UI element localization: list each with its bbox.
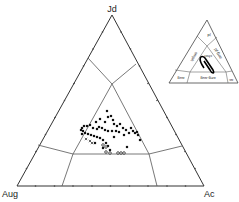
data-point	[80, 129, 82, 131]
inset-label-ac: ac	[229, 78, 233, 83]
data-point	[113, 123, 115, 125]
inset-classification-triangle: jd omph aeg-jd chor aug aeg-aug ac	[169, 20, 238, 83]
data-point	[130, 127, 132, 129]
data-point	[86, 125, 88, 127]
inset-label-chor: chor	[203, 54, 212, 59]
vertex-label-ac: Ac	[204, 189, 215, 199]
data-points-open	[102, 144, 126, 155]
data-point	[101, 127, 103, 129]
data-point	[98, 126, 100, 128]
data-point	[95, 121, 97, 123]
data-point	[84, 132, 86, 134]
vertex-label-jd: Jd	[107, 4, 117, 14]
data-point	[122, 127, 124, 129]
data-point	[137, 134, 139, 136]
data-point-open	[120, 152, 123, 155]
data-point	[93, 135, 95, 137]
data-point	[139, 139, 141, 141]
data-point	[119, 123, 121, 125]
field-boundaries	[38, 58, 182, 186]
data-point	[96, 128, 98, 130]
data-point	[105, 142, 107, 144]
data-points-solid	[80, 110, 141, 151]
data-point	[109, 149, 111, 151]
data-point	[99, 118, 101, 120]
data-point	[82, 130, 84, 132]
data-point	[132, 130, 134, 132]
data-point	[92, 127, 94, 129]
edge-ticks	[26, 31, 196, 187]
inset-label-jd: jd	[207, 33, 212, 38]
data-point	[83, 125, 85, 127]
data-point	[125, 129, 127, 131]
data-point	[116, 125, 118, 127]
main-triangle: Jd Aug Ac	[2, 4, 215, 199]
data-point	[107, 116, 109, 118]
data-point	[111, 130, 113, 132]
data-point	[136, 131, 138, 133]
data-point-open	[105, 146, 108, 149]
data-point	[123, 134, 125, 136]
inset-label-aeg-aug: aeg-aug	[200, 76, 216, 81]
data-point	[87, 133, 89, 135]
data-point	[90, 134, 92, 136]
data-point	[107, 130, 109, 132]
data-point-cross	[85, 138, 87, 140]
ternary-diagram: Jd Aug Ac jd omph aeg-jd chor aug aeg-au…	[0, 0, 239, 202]
data-point	[104, 129, 106, 131]
data-point	[89, 124, 91, 126]
data-point	[104, 121, 106, 123]
data-point-open	[109, 152, 112, 155]
inset-label-aug: aug	[177, 76, 185, 81]
data-point	[118, 131, 120, 133]
data-point	[96, 136, 98, 138]
data-point	[106, 110, 108, 112]
data-point	[113, 136, 115, 138]
data-point	[94, 142, 96, 144]
vertex-label-aug: Aug	[2, 189, 18, 199]
data-point	[126, 146, 128, 148]
data-point	[81, 127, 83, 129]
data-point	[110, 115, 112, 117]
data-point-open	[117, 152, 120, 155]
data-point	[81, 133, 83, 135]
data-point	[112, 119, 114, 121]
data-point-cross	[91, 142, 93, 144]
data-point-open	[105, 151, 108, 154]
data-point	[134, 132, 136, 134]
data-point	[99, 137, 101, 139]
data-point-open	[123, 152, 126, 155]
data-points-cross	[85, 138, 93, 144]
data-point	[102, 147, 104, 149]
data-point	[115, 130, 117, 132]
data-point	[128, 132, 130, 134]
triangle-outline	[17, 15, 204, 186]
data-point-open	[102, 144, 105, 147]
data-point	[102, 139, 104, 141]
